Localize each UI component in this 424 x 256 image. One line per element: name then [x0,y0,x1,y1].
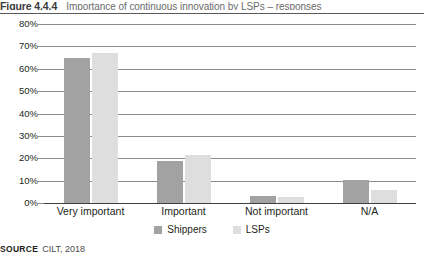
y-axis-tick-mark [38,158,44,159]
y-axis-tick-mark [38,181,44,182]
chart-legend: ShippersLSPs [0,224,424,235]
y-axis-tick-label: 50% [0,85,38,96]
legend-label: LSPs [246,224,270,235]
figure-title: Figure 4.4.4Importance of continuous inn… [0,0,424,10]
legend-label: Shippers [167,224,206,235]
bar-shippers-1 [157,161,183,204]
legend-swatch-icon [233,226,241,234]
y-axis-tick-mark [38,24,44,25]
bar-shippers-0 [64,58,90,203]
bar-lsps-3 [371,190,397,203]
y-axis-tick-label: 60% [0,63,38,74]
bar-group [250,24,304,203]
title-divider [0,13,424,14]
y-axis-tick-label: 80% [0,18,38,29]
y-axis-tick-mark [38,114,44,115]
y-axis-tick-label: 40% [0,108,38,119]
plot-area [44,24,416,203]
x-axis-label-0: Very important [44,205,137,217]
source-keyword: SOURCE [0,244,38,254]
y-axis-tick-label: 20% [0,152,38,163]
x-axis-label-2: Not important [230,205,323,217]
figure-caption: Importance of continuous innovation by L… [66,1,321,10]
x-axis-label-1: Important [137,205,230,217]
legend-swatch-icon [154,226,162,234]
bar-group [157,24,211,203]
y-axis-tick-mark [38,46,44,47]
bar-lsps-0 [92,53,118,203]
y-axis-tick-label: 10% [0,175,38,186]
bar-lsps-1 [185,155,211,203]
legend-item-lsps[interactable]: LSPs [233,224,270,235]
bar-group [343,24,397,203]
source-text: CILT, 2018 [42,244,85,254]
legend-item-shippers[interactable]: Shippers [154,224,206,235]
axis-baseline [44,203,416,204]
bar-shippers-2 [250,196,276,203]
bar-group [64,24,118,203]
bar-groups [44,24,416,203]
y-axis-tick-label: 0% [0,197,38,208]
source-line: SOURCECILT, 2018 [0,238,424,252]
x-axis-labels: Very importantImportantNot importantN/A [44,205,416,221]
bar-shippers-3 [343,180,369,203]
y-axis-tick-label: 70% [0,40,38,51]
x-axis-label-3: N/A [323,205,416,217]
y-axis-tick-mark [38,69,44,70]
y-axis-tick-mark [38,136,44,137]
y-axis-tick-mark [38,91,44,92]
figure-number: Figure 4.4.4 [0,0,57,10]
bar-lsps-2 [278,197,304,203]
y-axis-tick-mark [38,203,44,204]
y-axis-tick-label: 30% [0,130,38,141]
